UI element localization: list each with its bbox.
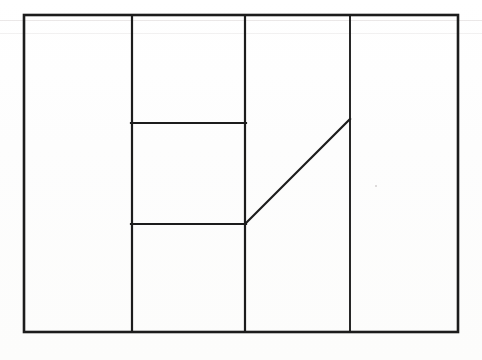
drawing-canvas [0, 0, 482, 360]
rising-diagonal-line [245, 119, 350, 224]
partitioned-rectangle-diagram [0, 0, 482, 360]
outer-boundary-rectangle [24, 15, 458, 332]
